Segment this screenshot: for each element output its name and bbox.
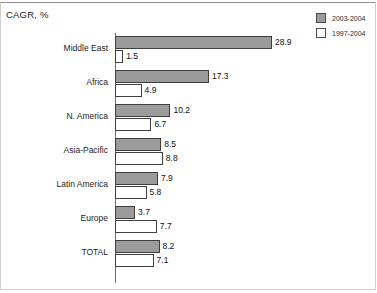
category-label-n-america: N. America — [0, 111, 108, 121]
bar-value-label: 28.9 — [275, 36, 292, 49]
bar-row: 7.9 — [115, 172, 173, 185]
bar-row: 10.2 — [115, 104, 190, 117]
bar-series-a[interactable] — [115, 240, 160, 253]
bar-value-label: 7.7 — [160, 220, 172, 233]
bar-series-a[interactable] — [115, 104, 170, 117]
bar-series-b[interactable] — [115, 50, 123, 63]
bar-row: 8.8 — [115, 152, 178, 165]
category-label-middle-east: Middle East — [0, 43, 108, 53]
bar-value-label: 6.7 — [154, 118, 166, 131]
bar-series-b[interactable] — [115, 152, 163, 165]
category-label-asia-pacific: Asia-Pacific — [0, 145, 108, 155]
bar-row: 28.9 — [115, 36, 292, 49]
bar-series-a[interactable] — [115, 206, 135, 219]
legend-swatch-2003-2004 — [316, 13, 326, 23]
category-label-europe: Europe — [0, 213, 108, 223]
bar-row: 7.7 — [115, 220, 172, 233]
bar-series-a[interactable] — [115, 70, 209, 83]
bar-row: 8.2 — [115, 240, 174, 253]
bar-row: 3.7 — [115, 206, 150, 219]
bar-row: 6.7 — [115, 118, 166, 131]
bar-row: 5.8 — [115, 186, 161, 199]
legend-item-series-a[interactable]: 2003-2004 — [316, 11, 376, 25]
bar-group: TOTAL8.27.1 — [0, 238, 377, 272]
legend-label-2003-2004: 2003-2004 — [332, 15, 365, 22]
bar-series-a[interactable] — [115, 138, 161, 151]
bar-series-b[interactable] — [115, 220, 157, 233]
chart-title: CAGR, % — [6, 9, 49, 20]
bar-value-label: 10.2 — [173, 104, 190, 117]
bar-series-b[interactable] — [115, 254, 154, 267]
bar-row: 8.5 — [115, 138, 176, 151]
bar-value-label: 3.7 — [138, 206, 150, 219]
bar-group: Europe3.77.7 — [0, 204, 377, 238]
category-label-africa: Africa — [0, 77, 108, 87]
category-label-total: TOTAL — [0, 247, 108, 257]
bar-value-label: 8.5 — [164, 138, 176, 151]
bar-value-label: 7.1 — [157, 254, 169, 267]
bar-value-label: 5.8 — [150, 186, 162, 199]
bar-group: Middle East28.91.5 — [0, 34, 377, 68]
chart-container: CAGR, % 2003-2004 1997-2004 Middle East2… — [0, 0, 377, 293]
bar-value-label: 1.5 — [126, 50, 138, 63]
bar-series-b[interactable] — [115, 186, 147, 199]
bar-series-b[interactable] — [115, 84, 142, 97]
bar-value-label: 7.9 — [161, 172, 173, 185]
bar-series-a[interactable] — [115, 36, 272, 49]
bar-group: Asia-Pacific8.58.8 — [0, 136, 377, 170]
bar-row: 1.5 — [115, 50, 138, 63]
category-label-latin-america: Latin America — [0, 179, 108, 189]
bar-value-label: 8.2 — [163, 240, 175, 253]
bar-row: 17.3 — [115, 70, 229, 83]
bar-value-label: 17.3 — [212, 70, 229, 83]
bar-group: Africa17.34.9 — [0, 68, 377, 102]
bar-series-b[interactable] — [115, 118, 151, 131]
bar-value-label: 8.8 — [166, 152, 178, 165]
bar-row: 4.9 — [115, 84, 156, 97]
bar-group: Latin America7.95.8 — [0, 170, 377, 204]
bar-series-a[interactable] — [115, 172, 158, 185]
bar-value-label: 4.9 — [145, 84, 157, 97]
plot-area: Middle East28.91.5Africa17.34.9N. Americ… — [0, 30, 377, 285]
bar-group: N. America10.26.7 — [0, 102, 377, 136]
bar-row: 7.1 — [115, 254, 168, 267]
